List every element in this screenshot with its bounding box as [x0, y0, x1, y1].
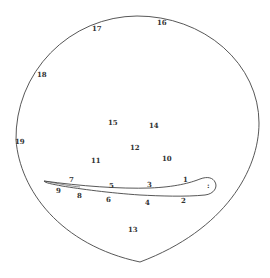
point-label-2: 2	[181, 197, 186, 205]
point-label-14: 14	[149, 122, 159, 130]
point-label-15: 15	[108, 119, 118, 127]
point-label-8: 8	[77, 192, 82, 200]
point-label-12: 12	[130, 144, 140, 152]
point-label-17: 17	[92, 25, 102, 33]
point-label-1: 1	[183, 176, 188, 184]
point-label-3: 3	[147, 181, 152, 189]
point-label-10: 10	[162, 155, 172, 163]
point-label-18: 18	[37, 71, 47, 79]
tip-mark: :	[207, 182, 210, 190]
point-label-11: 11	[91, 157, 101, 165]
diagram-canvas	[0, 0, 270, 278]
point-label-5: 5	[109, 182, 114, 190]
point-label-19: 19	[15, 138, 25, 146]
point-label-13: 13	[128, 226, 138, 234]
point-label-16: 16	[157, 19, 167, 27]
point-label-6: 6	[106, 196, 111, 204]
point-label-4: 4	[145, 199, 150, 207]
point-label-7: 7	[69, 176, 74, 184]
point-label-9: 9	[56, 187, 61, 195]
